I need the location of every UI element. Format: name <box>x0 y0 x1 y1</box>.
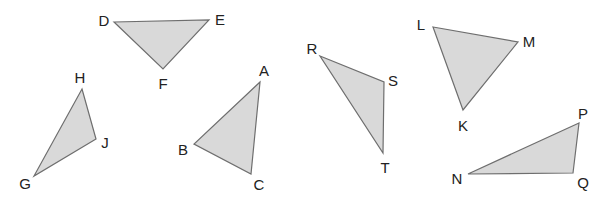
vertex-label-e: E <box>215 12 225 27</box>
vertex-label-a: A <box>259 63 269 78</box>
vertex-label-g: G <box>19 176 31 191</box>
vertex-label-l: L <box>417 17 425 32</box>
triangles-drawing <box>0 0 601 198</box>
vertex-label-r: R <box>307 41 318 56</box>
triangle-ghj <box>34 89 96 176</box>
triangle-rst <box>320 56 384 153</box>
vertex-label-d: D <box>99 13 110 28</box>
vertex-label-f: F <box>158 76 167 91</box>
vertex-label-k: K <box>458 118 468 133</box>
vertex-label-b: B <box>178 142 188 157</box>
triangle-npq <box>468 123 579 174</box>
triangle-def <box>114 20 209 69</box>
vertex-label-s: S <box>388 73 398 88</box>
vertex-label-t: T <box>380 160 389 175</box>
vertex-label-h: H <box>75 70 86 85</box>
triangle-abc <box>194 82 260 174</box>
triangle-klm <box>433 27 518 110</box>
vertex-label-q: Q <box>577 175 589 190</box>
triangles-diagram: D E F H J G A B C R S T L M K P N Q <box>0 0 601 198</box>
vertex-label-j: J <box>101 135 109 150</box>
vertex-label-m: M <box>523 34 536 49</box>
vertex-label-n: N <box>452 171 463 186</box>
vertex-label-c: C <box>254 177 265 192</box>
vertex-label-p: P <box>578 106 588 121</box>
